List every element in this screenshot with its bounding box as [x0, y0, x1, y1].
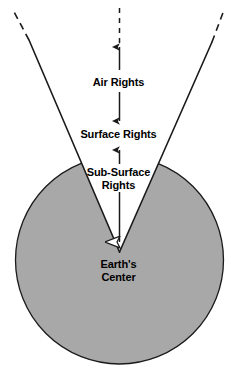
- label-earths-center: Earth's Center: [0, 258, 237, 284]
- label-air-rights: Air Rights: [0, 76, 237, 89]
- wedge-left-dashed-extension: [13, 10, 29, 40]
- label-sub-surface-rights: Sub-Surface Rights: [0, 166, 237, 192]
- wedge-right-dashed-extension: [212, 10, 224, 42]
- label-surface-rights: Surface Rights: [0, 128, 237, 141]
- earth-rights-diagram: Air Rights Surface Rights Sub-Surface Ri…: [0, 0, 237, 374]
